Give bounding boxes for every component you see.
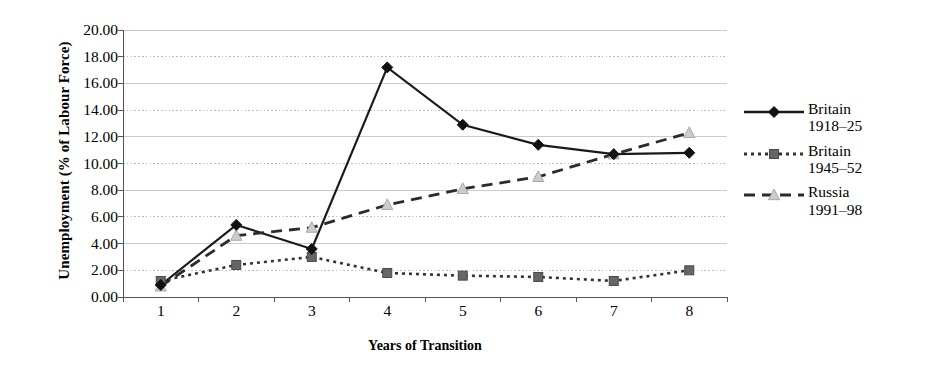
y-axis-tick-label: 16.00 <box>56 76 118 92</box>
y-axis-tick-label: 10.00 <box>56 156 118 172</box>
y-axis-tick-label: 2.00 <box>56 263 118 279</box>
x-axis-tick-label: 1 <box>141 300 181 322</box>
x-axis-tick-label: 3 <box>292 300 332 322</box>
square-marker <box>770 149 779 158</box>
y-axis-tick-label: 0.00 <box>56 289 118 305</box>
x-axis-tick-label: 6 <box>518 300 558 322</box>
diamond-marker <box>769 107 780 118</box>
y-axis-tick-label: 4.00 <box>56 236 118 252</box>
legend-item[interactable]: Britain 1945–52 <box>742 142 928 177</box>
legend-item[interactable]: Britain 1918–25 <box>742 100 928 135</box>
series-line-1 <box>161 67 690 285</box>
y-axis-tick-label: 6.00 <box>56 209 118 225</box>
x-axis-tick-label: 8 <box>669 300 709 322</box>
x-axis-title: Years of Transition <box>123 338 727 354</box>
square-legend-icon <box>742 144 806 164</box>
triangle-marker <box>382 199 393 210</box>
y-axis-tick-label: 20.00 <box>56 22 118 38</box>
square-marker <box>383 268 392 277</box>
diamond-marker <box>684 147 695 158</box>
square-marker <box>232 260 241 269</box>
triangle-legend-icon <box>742 185 806 205</box>
legend-item[interactable]: Russia 1991–98 <box>742 183 928 218</box>
square-marker <box>458 271 467 280</box>
chart-legend: Britain 1918–25Britain 1945–52Russia 199… <box>742 100 928 225</box>
y-axis-tick-labels: 0.002.004.006.008.0010.0012.0014.0016.00… <box>52 0 118 376</box>
x-axis-tick-label: 4 <box>367 300 407 322</box>
diamond-marker <box>533 139 544 150</box>
square-marker <box>609 276 618 285</box>
legend-label: Russia 1991–98 <box>806 183 862 218</box>
x-axis-tick-label: 7 <box>594 300 634 322</box>
y-axis-tick-label: 18.00 <box>56 49 118 65</box>
plot-area <box>123 30 727 297</box>
plot-svg <box>123 30 727 297</box>
unemployment-line-chart: Unemployment (% of Labour Force) 0.002.0… <box>0 0 928 376</box>
square-marker <box>534 272 543 281</box>
legend-label: Britain 1945–52 <box>806 142 862 177</box>
diamond-legend-icon <box>742 102 806 122</box>
x-axis-tick-label: 5 <box>443 300 483 322</box>
square-marker <box>685 266 694 275</box>
x-axis-tick-labels: 12345678 <box>123 300 727 328</box>
y-axis-tick-label: 12.00 <box>56 129 118 145</box>
x-axis-tick-label: 2 <box>216 300 256 322</box>
legend-label: Britain 1918–25 <box>806 100 862 135</box>
y-axis-tick-label: 14.00 <box>56 102 118 118</box>
triangle-marker <box>684 127 695 138</box>
y-axis-tick-label: 8.00 <box>56 182 118 198</box>
